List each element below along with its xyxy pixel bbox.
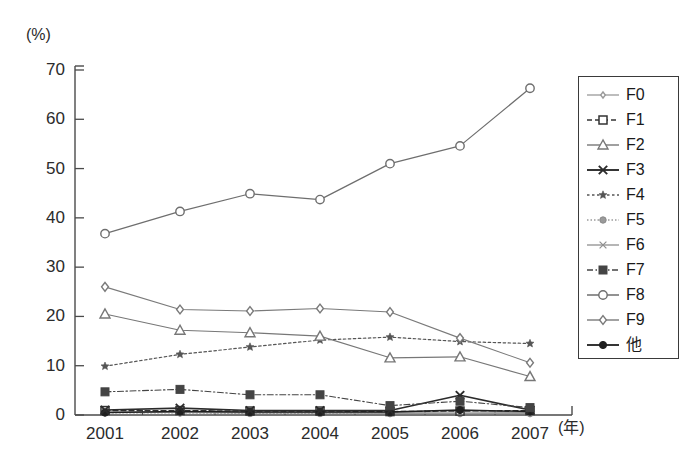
line-chart: (%) 010203040506070 20012002200320042005…	[0, 0, 699, 461]
legend-label: F1	[626, 112, 645, 128]
y-tick-label: 20	[25, 307, 65, 324]
series-F2	[100, 309, 535, 381]
legend-label: F8	[626, 287, 645, 303]
legend-item-他[interactable]: 他	[579, 332, 678, 357]
x-tick-label: 2007	[495, 425, 565, 442]
open-diamond-icon	[585, 309, 621, 331]
legend-item-F8[interactable]: F8	[579, 282, 678, 307]
y-tick-label: 10	[25, 357, 65, 374]
legend-item-F6[interactable]: F6	[579, 232, 678, 257]
y-tick-label: 70	[25, 61, 65, 78]
x-tick-label: 2002	[145, 425, 215, 442]
legend-item-F0[interactable]: F0	[579, 82, 678, 107]
series-layer	[100, 84, 535, 417]
legend-item-F7[interactable]: F7	[579, 257, 678, 282]
legend-label: F4	[626, 187, 645, 203]
legend-item-F3[interactable]: F3	[579, 157, 678, 182]
open-triangle-icon	[585, 134, 621, 156]
series-F8	[101, 84, 534, 238]
x-axis-unit-label: (年)	[558, 414, 585, 438]
legend-item-F1[interactable]: F1	[579, 107, 678, 132]
axis-layer	[75, 66, 572, 415]
filled-circle-icon	[585, 334, 621, 356]
legend-label: F5	[626, 212, 645, 228]
legend-item-F2[interactable]: F2	[579, 132, 678, 157]
legend-item-F9[interactable]: F9	[579, 307, 678, 332]
legend: F0F1F2F3F4F5F6F7F8F9他	[578, 76, 679, 359]
x-tick-label: 2006	[425, 425, 495, 442]
y-tick-label: 50	[25, 160, 65, 177]
legend-label: 他	[626, 337, 642, 353]
legend-item-F5[interactable]: F5	[579, 207, 678, 232]
legend-item-F4[interactable]: F4	[579, 182, 678, 207]
y-tick-label: 40	[25, 209, 65, 226]
x-tick-label: 2004	[285, 425, 355, 442]
y-tick-label: 30	[25, 258, 65, 275]
legend-label: F9	[626, 312, 645, 328]
open-circle-icon	[585, 284, 621, 306]
legend-label: F6	[626, 237, 645, 253]
legend-label: F2	[626, 137, 645, 153]
x-tick-label: 2005	[355, 425, 425, 442]
x-tick-label: 2003	[215, 425, 285, 442]
legend-label: F3	[626, 162, 645, 178]
y-tick-label: 0	[25, 406, 65, 423]
x-cross-icon	[585, 159, 621, 181]
open-square-icon	[585, 109, 621, 131]
filled-square-icon	[585, 259, 621, 281]
x-cross-light-icon	[585, 234, 621, 256]
legend-label: F7	[626, 262, 645, 278]
filled-circle-gray-icon	[585, 209, 621, 231]
y-tick-label: 60	[25, 110, 65, 127]
legend-label: F0	[626, 87, 645, 103]
x-tick-label: 2001	[70, 425, 140, 442]
star-icon	[585, 184, 621, 206]
open-diamond-small-icon	[585, 84, 621, 106]
series-F9	[102, 282, 534, 367]
